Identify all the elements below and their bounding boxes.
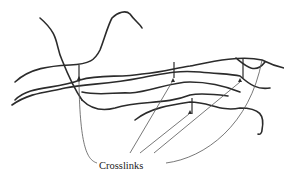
polymer-chain-7 — [135, 102, 263, 134]
arrowhead-1 — [77, 76, 81, 80]
arrowhead-3 — [238, 78, 242, 82]
leader-line-4 — [154, 82, 240, 153]
leader-line-5 — [166, 60, 262, 163]
leader-line-3 — [140, 114, 189, 153]
polymer-chain-6 — [82, 94, 228, 109]
arrowhead-2 — [171, 78, 175, 82]
crosslinks-label: Crosslinks — [99, 160, 143, 172]
crosslinks-diagram — [0, 0, 284, 173]
